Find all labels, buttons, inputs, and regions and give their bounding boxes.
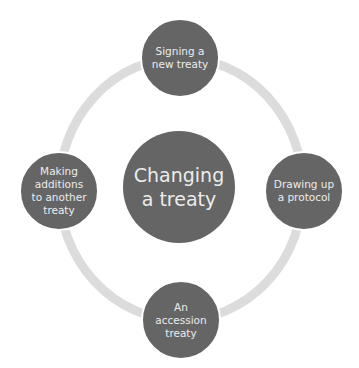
center-node-changing-treaty: Changing a treaty <box>123 131 235 243</box>
node-making-additions: Making additions to another treaty <box>19 151 99 231</box>
node-label: Signing a new treaty <box>152 45 208 71</box>
treaty-change-diagram: Signing a new treaty Drawing up a protoc… <box>0 0 359 368</box>
node-signing-new-treaty: Signing a new treaty <box>140 18 220 98</box>
node-label: Drawing up a protocol <box>274 178 334 204</box>
node-accession-treaty: An accession treaty <box>141 280 221 360</box>
node-label: An accession treaty <box>155 301 206 340</box>
node-drawing-up-protocol: Drawing up a protocol <box>264 151 344 231</box>
node-label: Making additions to another treaty <box>32 165 87 217</box>
center-label: Changing a treaty <box>134 163 224 211</box>
